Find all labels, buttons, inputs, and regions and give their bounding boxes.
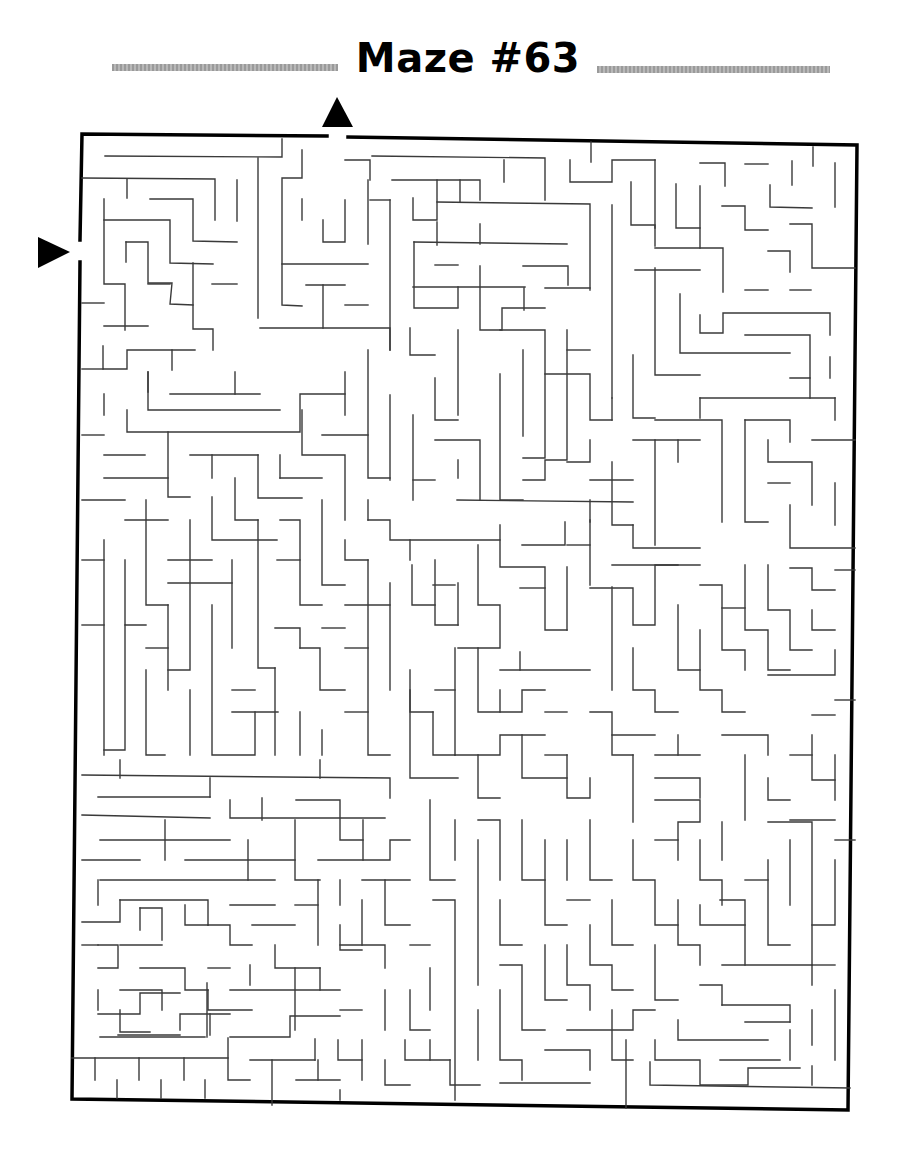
entry-arrow-icon: [38, 237, 70, 268]
exit-arrow-icon: [322, 97, 353, 127]
maze-board[interactable]: [0, 0, 903, 1149]
maze-walls: [72, 139, 855, 1108]
